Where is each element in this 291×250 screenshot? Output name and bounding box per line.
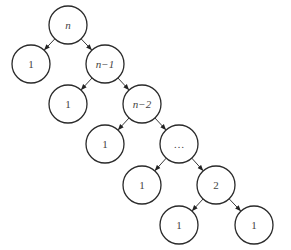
recursion-tree-diagram: n1n−11n−21…1211	[0, 0, 291, 250]
tree-node: 1	[123, 166, 161, 204]
node-label: n	[65, 19, 71, 31]
tree-node: 1	[12, 45, 50, 83]
nodes: n1n−11n−21…1211	[12, 6, 273, 244]
edge-arrow	[229, 199, 240, 211]
edge-arrow	[192, 199, 203, 211]
tree-node: …	[160, 125, 198, 163]
edge-arrow	[155, 158, 166, 170]
node-label: 1	[176, 219, 182, 231]
node-label: 1	[28, 58, 34, 70]
tree-node: n	[49, 6, 87, 44]
tree-node: n−2	[123, 85, 161, 123]
node-label: 1	[65, 98, 71, 110]
tree-node: 1	[49, 85, 87, 123]
edge-arrow	[155, 118, 166, 130]
edge-arrow	[118, 118, 129, 130]
node-label: 1	[251, 219, 257, 231]
edge-arrow	[192, 158, 203, 170]
node-label: 2	[213, 179, 219, 191]
edge-arrow	[118, 78, 129, 90]
tree-node: 1	[86, 125, 124, 163]
node-label: n−2	[133, 98, 152, 110]
edge-arrow	[81, 78, 92, 90]
tree-node: n−1	[86, 45, 124, 83]
node-label: 1	[139, 179, 145, 191]
node-label: 1	[102, 138, 108, 150]
tree-node: 2	[197, 166, 235, 204]
edge-arrow	[44, 39, 55, 50]
edge-arrow	[81, 39, 92, 50]
tree-node: 1	[235, 206, 273, 244]
node-label: n−1	[96, 58, 114, 70]
node-label: …	[174, 138, 185, 150]
tree-node: 1	[160, 206, 198, 244]
